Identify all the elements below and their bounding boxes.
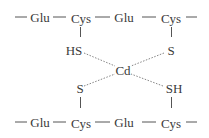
dashed-bond [84,74,115,86]
bottom-residue-cys-2: Cys [161,117,181,130]
top-residue-glu-1: Glu [30,11,50,24]
bottom-residue-glu-2: Glu [114,116,134,129]
thiol-top-left: HS [66,44,83,57]
top-residue-cys-1: Cys [71,12,91,25]
dashed-bond [84,53,115,66]
thiol-bottom-right: SH [166,82,183,95]
bottom-residue-glu-1: Glu [30,116,50,129]
top-residue-glu-2: Glu [114,11,134,24]
cadmium-peptide-diagram: Glu Cys Glu Cys HS S Cd S SH Glu Cys Glu… [0,0,209,138]
dashed-bond [131,74,163,86]
top-residue-cys-2: Cys [161,12,181,25]
thiolate-bottom-left: S [76,82,83,95]
bottom-residue-cys-1: Cys [71,117,91,130]
thiolate-top-right: S [167,44,174,57]
dashed-bond [131,53,164,66]
cadmium-center: Cd [115,64,130,77]
